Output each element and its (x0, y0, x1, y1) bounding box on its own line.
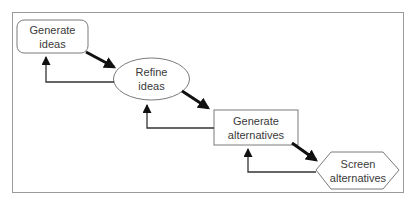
feedback-alternatives-to-refine (147, 105, 214, 128)
node-generate-ideas-label: Generate ideas (17, 20, 88, 53)
node-generate-alternatives-label: Generate alternatives (214, 110, 298, 145)
node-screen-alternatives-label: Screen alternatives (318, 152, 398, 189)
flowchart-diagram: Generate ideas Refine ideas Generate alt… (0, 0, 417, 206)
arrow-alternatives-to-screen (292, 143, 316, 160)
node-refine-ideas-label: Refine ideas (113, 58, 190, 100)
arrow-generate-to-refine (86, 52, 114, 67)
